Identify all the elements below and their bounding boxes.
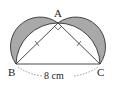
geometry-diagram: A B C 8 cm (0, 0, 116, 91)
shaded-lune-left (10, 17, 58, 64)
dimension-line-left (18, 67, 42, 76)
point-label-a: A (54, 7, 62, 19)
measurement-label: 8 cm (44, 70, 64, 81)
shaded-lune-right (58, 17, 106, 64)
dimension-line-right (74, 67, 98, 76)
right-angle-marker (55, 26, 62, 29)
point-label-c: C (97, 66, 104, 78)
point-label-b: B (8, 66, 15, 78)
